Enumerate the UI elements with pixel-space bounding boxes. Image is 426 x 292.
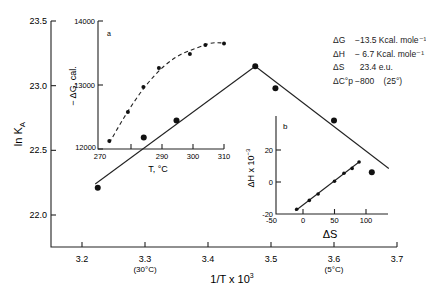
inset-a-data-point [188,52,192,56]
legend-value: −13.5 Kcal. mole⁻¹ [355,34,426,48]
inset-b-x-tick-label: 0 [301,216,305,225]
inset-a-y-tick-label: 14000 [74,17,95,26]
x-tick-label: 3.6 [328,254,341,264]
inset-b-y-label: ΔH x 10−3 [245,148,256,188]
inset-b-fit-line [295,162,359,211]
main-data-point [174,118,180,124]
legend-key: ΔS [333,61,355,75]
main-fit-line [95,66,255,184]
main-data-point [272,85,278,91]
legend-value: −800 (25°) [355,75,402,89]
inset-a-data-point [107,139,111,143]
inset-a-data-point [141,85,145,89]
y-tick-label: 23.5 [29,16,47,26]
inset-b-x-tick-label: 100 [360,216,373,225]
inset-a-panel-label: a [107,30,111,37]
inset-b-panel-label: b [283,122,288,131]
legend-key: ΔC°p [333,75,355,89]
inset-b-data-point [342,171,346,175]
inset-a-data-point [157,66,161,70]
y-tick-label: 23.0 [29,81,47,91]
legend-row-dcp: ΔC°p−800 (25°) [333,75,426,89]
inset-b-data-point [333,179,337,183]
legend-key: ΔH [333,48,355,62]
main-data-point [369,169,375,175]
inset-a-y-tick-label: 12000 [75,143,96,152]
legend-row-dh: ΔH− 6.7 Kcal. mole⁻¹ [333,48,426,62]
inset-a-y-label: − ΔG, cal. [68,66,78,105]
main-y-label: ln KA [12,121,27,146]
inset-b-x-label: ΔS [323,228,338,240]
inset-b-axes [276,116,388,214]
legend-value: 23.4 e.u. [355,61,393,75]
legend-value: − 6.7 Kcal. mole⁻¹ [355,48,424,62]
inset-a-x-tick-label: 300 [187,152,200,161]
x-tick-label: 3.5 [265,254,278,264]
inset-b-x-tick-label: 50 [330,216,338,225]
inset-a-x-tick-label: 270 [94,152,107,161]
x-tick-label: 3.2 [76,254,89,264]
legend-row-ds: ΔS 23.4 e.u. [333,61,426,75]
inset-a-x-tick-label: 310 [218,152,231,161]
inset-b-data-point [350,167,354,171]
y-tick-label: 22.5 [29,145,47,155]
main-x-label: 1/T x 103 [210,272,254,285]
inset-b-y-tick-label: -20 [262,210,273,219]
inset-a-x-tick-label: 290 [156,152,169,161]
inset-b-plot: -50050100-20020ΔH x 10−3ΔSb [245,116,388,240]
x-tick-label: 3.4 [202,254,215,264]
inset-a-plot: 270290300310120001300014000− ΔG, cal.T, … [68,17,230,174]
main-data-point [95,185,101,191]
main-data-point [252,63,258,69]
inset-b-y-tick-label: 20 [265,146,273,155]
legend-key: ΔG [333,34,355,48]
inset-b-data-point [357,160,361,164]
x-tick-sublabel: (5°C) [325,265,344,274]
inset-b-data-point [316,192,320,196]
inset-b-data-point [295,207,299,211]
x-tick-label: 3.3 [139,254,152,264]
legend-row-dg: ΔG−13.5 Kcal. mole⁻¹ [333,34,426,48]
inset-a-data-point [126,110,130,114]
inset-b-data-point [308,199,312,203]
y-tick-label: 22.0 [29,210,47,220]
inset-a-x-label: T, °C [148,164,168,174]
main-data-point [141,134,147,140]
inset-a-data-point [203,43,207,47]
inset-a-fit-curve [109,43,224,143]
x-tick-sublabel: (30°C) [133,265,157,274]
main-data-point [331,118,337,124]
inset-a-data-point [222,41,226,45]
thermo-legend: ΔG−13.5 Kcal. mole⁻¹ ΔH− 6.7 Kcal. mole⁻… [333,34,426,88]
inset-b-y-tick-label: 0 [269,178,273,187]
x-tick-label: 3.7 [391,254,404,264]
